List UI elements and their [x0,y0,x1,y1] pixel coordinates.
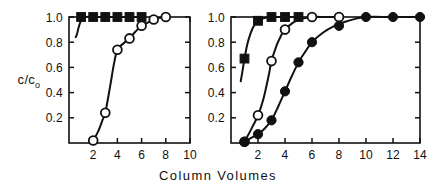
marker-filled-circle [415,12,424,21]
x-tick-label: 10 [359,148,373,162]
marker-filled-circle [240,137,249,146]
x-tick-label: 6 [309,148,316,162]
x-tick-label: 12 [386,148,400,162]
right-panel-plot: 0.20.40.60.81.02468101214 [0,0,436,193]
marker-filled-circle [253,130,262,139]
x-tick-label: 14 [413,148,427,162]
marker-filled-circle [334,21,343,30]
x-tick-label: 8 [336,148,343,162]
y-tick-label: 0.6 [208,61,225,75]
x-tick-label: 4 [282,148,289,162]
y-tick-label: 0.2 [208,111,225,125]
plot-frame [231,17,420,143]
marker-open-circle [335,13,344,22]
x-tick-label: 2 [255,148,262,162]
y-tick-label: 0.8 [208,36,225,50]
x-axis-label: Column Volumes [0,168,436,183]
marker-open-circle [254,111,263,120]
marker-filled-square [267,13,276,22]
marker-filled-square [281,13,290,22]
marker-filled-square [294,13,303,22]
marker-filled-circle [307,38,316,47]
marker-filled-circle [280,87,289,96]
marker-filled-circle [361,12,370,21]
marker-filled-circle [388,12,397,21]
marker-open-circle [267,57,276,66]
marker-filled-circle [267,116,276,125]
marker-open-circle [281,25,290,34]
marker-open-circle [308,13,317,22]
marker-filled-circle [294,58,303,67]
marker-filled-square [254,16,263,25]
marker-filled-square [240,54,249,63]
y-tick-label: 0.4 [208,86,225,100]
figure-container: c/co 0.20.40.60.81.0246810 0.20.40.60.81… [0,0,436,193]
y-tick-label: 1.0 [208,11,225,25]
